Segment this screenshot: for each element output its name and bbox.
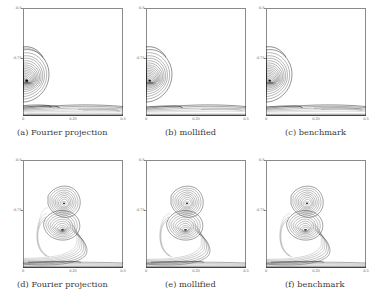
x-axis-tick-label-0: 0 — [145, 118, 147, 122]
x-axis-tick-label-1: 0.25 — [69, 270, 77, 274]
panel-caption-f: (f) benchmark — [285, 280, 344, 288]
x-axis-tick-label-1: 0.25 — [69, 118, 77, 122]
x-axis-tick-label-0: 0 — [265, 270, 267, 274]
y-axis-tick-label-mid: -0.75 — [13, 209, 22, 213]
contour-plot-d — [23, 160, 123, 268]
x-axis-tick-label-0: 0 — [22, 118, 24, 122]
panel-caption-e: (e) mollified — [165, 280, 216, 288]
x-axis-tick-label-2: 0.5 — [243, 270, 248, 274]
x-axis-tick-label-2: 0.5 — [363, 118, 368, 122]
x-axis-tick-label-2: 0.5 — [120, 118, 125, 122]
contour-plot-c — [266, 8, 366, 116]
contour-plot-e — [146, 160, 246, 268]
contour-plot-a — [23, 8, 123, 116]
figure-row-bottom: -0.5 -0.75 0 0.25 0.5 — [0, 152, 386, 303]
y-axis-tick-label-top: -0.5 — [138, 159, 145, 163]
x-axis-tick-label-2: 0.5 — [363, 270, 368, 274]
plot-panel-e: -0.5 -0.75 0 0.25 0.5 — [146, 160, 246, 268]
y-axis-tick-label-mid: -0.75 — [13, 57, 22, 61]
plot-panel-a: -0.5 -0.75 0 0.25 0.5 — [23, 8, 123, 116]
plot-panel-b: -0.5 -0.75 0 0.25 0.5 — [146, 8, 246, 116]
contour-plot-f — [266, 160, 366, 268]
y-axis-tick-label-top: -0.5 — [15, 7, 22, 11]
y-axis-tick-label-mid: -0.75 — [136, 57, 145, 61]
figure-contour-grid: -0.5 -0.75 0 0.25 0.5 — [0, 0, 386, 303]
x-axis-tick-label-2: 0.5 — [243, 118, 248, 122]
y-axis-tick-label-mid: -0.75 — [256, 209, 265, 213]
y-axis-tick-label-top: -0.5 — [258, 7, 265, 11]
x-axis-tick-label-1: 0.25 — [312, 270, 320, 274]
panel-caption-a: (a) Fourier projection — [17, 128, 107, 136]
y-axis-tick-label-top: -0.5 — [258, 159, 265, 163]
x-axis-tick-label-1: 0.25 — [192, 270, 200, 274]
contour-plot-b — [146, 8, 246, 116]
y-axis-tick-label-mid: -0.75 — [136, 209, 145, 213]
x-axis-tick-label-1: 0.25 — [192, 118, 200, 122]
panel-caption-b: (b) mollified — [165, 128, 216, 136]
figure-row-top: -0.5 -0.75 0 0.25 0.5 — [0, 0, 386, 150]
x-axis-tick-label-2: 0.5 — [120, 270, 125, 274]
y-axis-tick-label-top: -0.5 — [15, 159, 22, 163]
x-axis-tick-label-1: 0.25 — [312, 118, 320, 122]
x-axis-tick-label-0: 0 — [145, 270, 147, 274]
x-axis-tick-label-0: 0 — [265, 118, 267, 122]
y-axis-tick-label-mid: -0.75 — [256, 57, 265, 61]
panel-caption-d: (d) Fourier projection — [17, 280, 108, 288]
plot-panel-d: -0.5 -0.75 0 0.25 0.5 — [23, 160, 123, 268]
y-axis-tick-label-top: -0.5 — [138, 7, 145, 11]
plot-panel-f: -0.5 -0.75 0 0.25 0.5 — [266, 160, 366, 268]
plot-panel-c: -0.5 -0.75 0 0.25 0.5 — [266, 8, 366, 116]
x-axis-tick-label-0: 0 — [22, 270, 24, 274]
panel-caption-c: (c) benchmark — [285, 128, 346, 136]
